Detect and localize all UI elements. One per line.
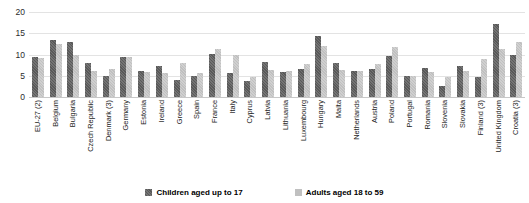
bar-group [348, 12, 366, 97]
x-axis-label-item: Czech Republic [82, 99, 100, 167]
x-axis-label-text: EU-27 (2) [34, 100, 41, 132]
bar-group [135, 12, 153, 97]
x-axis-label-item: Italy [224, 99, 242, 167]
bar-adults [73, 55, 79, 97]
x-axis-category-labels: EU-27 (2)BelgiumBulgariaCzech RepublicDe… [29, 99, 525, 167]
bar-adults [463, 71, 469, 97]
bar-group [383, 12, 401, 97]
bar-adults [144, 72, 150, 97]
x-axis-label-text: Poland [389, 100, 396, 123]
bar-adults [516, 42, 522, 97]
x-axis-label-text: Spain [194, 100, 201, 119]
x-axis-label-item: Bulgaria [64, 99, 82, 167]
bar-adults [304, 64, 310, 97]
bar-group [153, 12, 171, 97]
bar-adults [428, 72, 434, 97]
x-axis-label-item: Ireland [153, 99, 171, 167]
bar-chart: 05101520 EU-27 (2)BelgiumBulgariaCzech R… [0, 0, 529, 203]
legend-item-adults: Adults aged 18 to 59 [295, 188, 384, 197]
bar-group [82, 12, 100, 97]
x-axis-label-text: Cyprus [247, 100, 254, 123]
x-axis-label-text: Czech Republic [87, 100, 94, 152]
x-axis-label-text: Bulgaria [70, 100, 77, 127]
bar-adults [180, 63, 186, 97]
x-axis-label-text: Latvia [265, 100, 272, 120]
bar-adults [375, 64, 381, 97]
x-axis-label-text: Italy [229, 100, 236, 114]
bar-adults [215, 49, 221, 97]
y-axis-tick-0: 0 [20, 92, 25, 102]
x-axis-label-text: Greece [176, 100, 183, 124]
bar-adults [481, 59, 487, 97]
bar-group [507, 12, 525, 97]
x-axis-label-text: Slovenia [442, 100, 449, 128]
x-axis-label-text: Luxembourg [300, 100, 307, 141]
bar-adults [445, 77, 451, 97]
bar-group [29, 12, 47, 97]
bar-group [171, 12, 189, 97]
x-axis-label-item: Finland (3) [472, 99, 490, 167]
x-axis-label-item: Estonia [135, 99, 153, 167]
bar-group [330, 12, 348, 97]
bar-group [277, 12, 295, 97]
y-axis-tick-4: 20 [16, 7, 25, 17]
x-axis-label-text: Lithuania [282, 100, 289, 130]
bar-adults [321, 46, 327, 97]
legend-swatch-children-icon [145, 189, 152, 196]
bar-group [118, 12, 136, 97]
bar-adults [499, 49, 505, 97]
x-axis-label-text: Slovakia [459, 100, 466, 128]
y-axis-tick-1: 5 [20, 71, 25, 81]
x-axis-label-item: Poland [383, 99, 401, 167]
x-axis-label-text: Austria [371, 100, 378, 123]
x-axis-label-item: Netherlands [348, 99, 366, 167]
x-axis-label-text: Ireland [158, 100, 165, 123]
bar-adults [268, 70, 274, 97]
x-axis-label-text: Estonia [140, 100, 147, 125]
bar-group [100, 12, 118, 97]
bar-group [472, 12, 490, 97]
x-axis-label-text: Denmark (3) [105, 100, 112, 141]
x-axis-label-item: Belgium [47, 99, 65, 167]
x-axis-label-item: United Kingdom [490, 99, 508, 167]
x-axis-label-text: Croatia (3) [513, 100, 520, 135]
bar-group [206, 12, 224, 97]
bar-adults [357, 71, 363, 97]
bar-adults [286, 71, 292, 97]
bar-group [401, 12, 419, 97]
x-axis-label-text: Finland (3) [477, 100, 484, 135]
x-axis-label-item: EU-27 (2) [29, 99, 47, 167]
x-axis-label-item: Luxembourg [295, 99, 313, 167]
bar-adults [91, 71, 97, 97]
bar-adults [109, 69, 115, 97]
bar-adults [410, 76, 416, 97]
x-axis-label-item: Romania [419, 99, 437, 167]
x-axis-label-text: Netherlands [353, 100, 360, 140]
x-axis-label-item: Croatia (3) [507, 99, 525, 167]
bar-group [490, 12, 508, 97]
x-axis-label-text: Germany [123, 100, 130, 130]
bar-series-container [29, 12, 525, 97]
bar-group [313, 12, 331, 97]
plot-area [29, 12, 525, 97]
bar-adults [339, 70, 345, 97]
legend-label-adults: Adults aged 18 to 59 [306, 188, 384, 197]
x-axis-label-item: Spain [188, 99, 206, 167]
legend-label-children: Children aged up to 17 [156, 188, 242, 197]
y-axis-tick-2: 10 [16, 50, 25, 60]
bar-group [242, 12, 260, 97]
clipped-header-strip [0, 0, 529, 5]
bar-adults [38, 58, 44, 97]
x-axis-label-text: Portugal [406, 100, 413, 128]
bar-group [295, 12, 313, 97]
bar-group [454, 12, 472, 97]
bar-adults [56, 44, 62, 97]
bar-group [224, 12, 242, 97]
x-axis-label-item: Slovenia [437, 99, 455, 167]
bar-group [188, 12, 206, 97]
bar-adults [197, 73, 203, 97]
bar-group [437, 12, 455, 97]
x-axis-label-item: France [206, 99, 224, 167]
chart-legend: Children aged up to 17 Adults aged 18 to… [0, 188, 529, 197]
gridline-0 [29, 97, 525, 98]
